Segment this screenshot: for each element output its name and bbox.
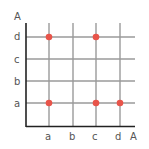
x-tick-b: b <box>69 131 75 142</box>
point-c-d <box>93 34 100 41</box>
x-axis-label: A <box>130 131 137 142</box>
x-tick-c: c <box>92 131 98 142</box>
x-tick-a: a <box>45 131 51 142</box>
y-tick-a: a <box>14 98 20 109</box>
point-a-a <box>46 100 53 107</box>
point-d-a <box>117 100 124 107</box>
grid-lines <box>26 23 135 126</box>
point-a-d <box>46 34 53 41</box>
point-c-a <box>93 100 100 107</box>
y-tick-c: c <box>14 54 20 65</box>
points <box>46 34 124 107</box>
relation-grid-diagram: A d c b a a b c d A <box>0 0 149 149</box>
y-axis-label: A <box>14 11 21 22</box>
axes <box>26 23 135 127</box>
y-tick-d: d <box>14 31 20 42</box>
y-tick-b: b <box>14 76 20 87</box>
x-tick-d: d <box>115 131 121 142</box>
